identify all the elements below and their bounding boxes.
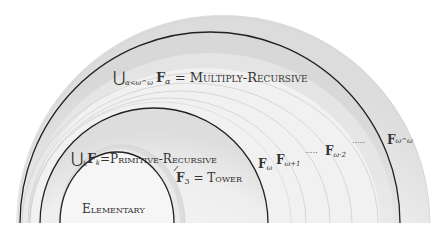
ellipsis-2: ····· [352, 138, 365, 147]
hierarchy-diagram: ⋃α<ω^ωFα = Multiply-Recursive ⋃kFk=Primi… [0, 0, 446, 235]
label-primitive-recursive: ⋃kFk=Primitive-Recursive [71, 149, 217, 168]
label-elementary: Elementary [82, 202, 145, 216]
ellipsis-1: ····· [305, 148, 318, 157]
